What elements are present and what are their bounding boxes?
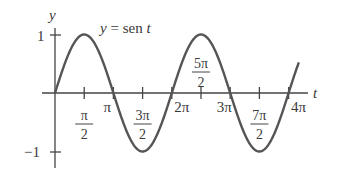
curve-label-var: t <box>146 20 151 36</box>
x-tick-label: 2 <box>81 127 88 142</box>
x-tick-label: 5π <box>194 56 208 71</box>
curve-label-lhs: y <box>98 20 107 36</box>
y-axis-label: y <box>47 7 56 23</box>
x-tick-labels: π2π3π22π5π23π7π24π <box>75 56 306 142</box>
x-tick-label: 2 <box>256 127 263 142</box>
x-tick-label: 2π <box>174 99 190 115</box>
x-tick-label: 2 <box>139 127 146 142</box>
x-axis-label: t <box>313 85 318 101</box>
x-tick-label: 4π <box>291 99 307 115</box>
x-tick-label: 2 <box>198 75 205 90</box>
x-tick-label: π <box>81 108 88 123</box>
x-tick-label: 7π <box>252 108 266 123</box>
curve-label: y = sen t <box>98 20 151 36</box>
y-tick-label-neg1: −1 <box>24 144 40 160</box>
sine-chart: y 1 −1 t y = sen t π2π3π22π5π23π7π24π <box>0 0 341 176</box>
x-tick-label: 3π <box>136 108 150 123</box>
x-tick-label: 3π <box>217 99 233 115</box>
curve-label-eq: = sen <box>107 20 147 36</box>
y-tick-label-1: 1 <box>37 28 45 44</box>
x-tick-label: π <box>104 99 112 115</box>
